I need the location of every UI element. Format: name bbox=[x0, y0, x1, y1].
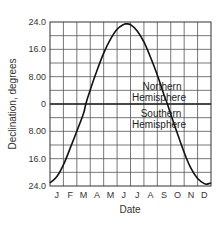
x-tick-label-month: J bbox=[135, 190, 140, 200]
annotation-southern: Southern bbox=[141, 108, 182, 119]
x-tick-label-month: A bbox=[94, 190, 100, 200]
y-tick-label: 24.0 bbox=[28, 17, 46, 27]
declination-chart: 24.016.08.0008.0016.024.0 JFMAMJJASOND N… bbox=[0, 0, 224, 226]
x-tick-label-month: F bbox=[67, 190, 73, 200]
y-axis-label: Declination, degrees bbox=[7, 58, 18, 149]
x-tick-label-month: N bbox=[188, 190, 195, 200]
x-tick-label-month: J bbox=[54, 190, 59, 200]
y-tick-label: 0 bbox=[41, 99, 46, 109]
y-tick-label: 24.0 bbox=[28, 181, 46, 191]
x-tick-label-month: M bbox=[107, 190, 115, 200]
x-axis-label: Date bbox=[119, 204, 141, 215]
annotation-northern: Northern bbox=[143, 81, 182, 92]
x-tick-label-month: M bbox=[80, 190, 88, 200]
y-tick-label: 8.00 bbox=[28, 72, 46, 82]
y-axis-tick-labels: 24.016.08.0008.0016.024.0 bbox=[28, 17, 46, 191]
x-axis-month-labels: JFMAMJJASOND bbox=[54, 190, 208, 200]
x-tick-label-month: D bbox=[201, 190, 208, 200]
x-tick-label-month: J bbox=[122, 190, 127, 200]
annotation-southern-hemisphere: Hemisphere bbox=[132, 119, 186, 130]
annotation-northern-hemisphere: Hemisphere bbox=[132, 92, 186, 103]
y-tick-label: 16.0 bbox=[28, 154, 46, 164]
x-tick-label-month: S bbox=[161, 190, 167, 200]
x-tick-label-month: O bbox=[174, 190, 181, 200]
y-tick-label: 8.00 bbox=[28, 126, 46, 136]
y-tick-label: 16.0 bbox=[28, 44, 46, 54]
x-tick-label-month: A bbox=[148, 190, 154, 200]
